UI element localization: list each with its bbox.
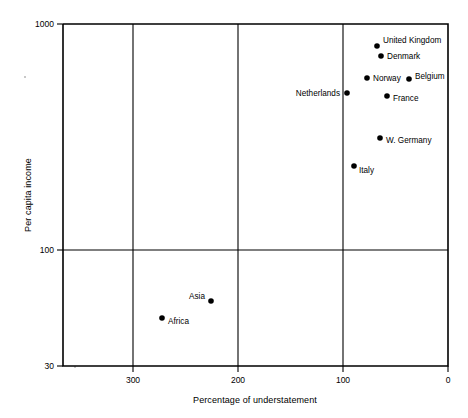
data-point-asia[interactable]: Asia — [189, 292, 214, 304]
data-point-belgium[interactable]: Belgium — [406, 72, 445, 82]
marker-dot — [406, 76, 412, 82]
marker-dot — [374, 43, 380, 49]
xtick-label-0: 0 — [446, 375, 451, 385]
data-point-france[interactable]: France — [384, 93, 419, 103]
data-point-label: Norway — [373, 74, 402, 83]
xtick-label-300: 300 — [126, 375, 140, 385]
data-point-label: W. Germany — [386, 136, 432, 145]
data-point-label: Italy — [359, 166, 375, 175]
data-point-label: France — [393, 94, 419, 103]
marker-dot — [344, 90, 350, 96]
x-axis-title: Percentage of understatement — [193, 395, 317, 405]
data-point-italy[interactable]: Italy — [351, 163, 375, 175]
marker-dot — [378, 53, 384, 59]
y-axis-title: Per capita income — [23, 158, 33, 232]
data-point-label: United Kingdom — [383, 36, 441, 45]
data-point-denmark[interactable]: Denmark — [378, 52, 421, 61]
marker-dot — [384, 93, 390, 99]
data-point-africa[interactable]: Africa — [159, 315, 189, 326]
marker-dot — [208, 298, 214, 304]
ytick-label-100: 100 — [40, 245, 54, 255]
chart-canvas: 1000 100 30 300 200 100 0 Per capita inc… — [0, 0, 468, 418]
xtick-label-100: 100 — [336, 375, 350, 385]
data-point-norway[interactable]: Norway — [364, 74, 401, 83]
xtick-label-200: 200 — [231, 375, 245, 385]
ytick-label-30: 30 — [45, 361, 55, 371]
marker-dot — [364, 75, 370, 81]
marker-dot — [351, 163, 357, 169]
data-point-netherlands[interactable]: Netherlands — [296, 89, 350, 98]
data-point-label: Africa — [168, 317, 189, 326]
data-point-w-germany[interactable]: W. Germany — [377, 135, 432, 145]
ytick-label-1000: 1000 — [35, 19, 54, 29]
data-point-label: Belgium — [415, 72, 445, 81]
data-point-label: Asia — [189, 292, 205, 301]
data-point-label: Denmark — [387, 52, 421, 61]
scatter-chart-figure: 1000 100 30 300 200 100 0 Per capita inc… — [0, 0, 468, 418]
marker-dot — [159, 315, 165, 321]
data-point-united-kingdom[interactable]: United Kingdom — [374, 36, 441, 49]
marker-dot — [377, 135, 383, 141]
data-point-label: Netherlands — [296, 89, 340, 98]
scan-speck — [24, 76, 26, 78]
